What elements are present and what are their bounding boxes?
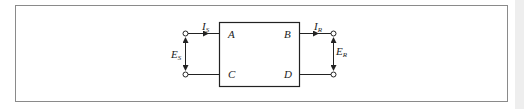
label-c: C <box>228 68 236 80</box>
sending-current-label: IS <box>201 20 210 34</box>
two-port-diagram: A B C D IS IR ES ER <box>0 0 524 109</box>
receiving-terminal-top <box>331 31 336 36</box>
sending-terminal-bottom <box>183 72 188 77</box>
sending-voltage-label: ES <box>170 48 182 62</box>
label-a: A <box>227 28 235 40</box>
receiving-terminal-bottom <box>331 72 336 77</box>
receiving-voltage-label: ER <box>335 45 348 59</box>
label-d: D <box>283 68 292 80</box>
label-b: B <box>284 28 291 40</box>
receiving-current-label: IR <box>313 20 323 34</box>
sending-terminal-top <box>183 31 188 36</box>
